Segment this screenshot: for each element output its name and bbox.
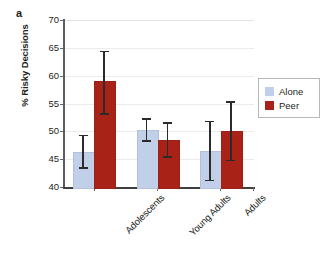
error-bar-stem bbox=[82, 135, 84, 170]
legend-item-peer: Peer bbox=[265, 101, 314, 111]
x-category-label: Adolescents bbox=[122, 192, 166, 236]
x-category-label: Adults bbox=[242, 192, 268, 218]
error-bar-peer-adolescents bbox=[94, 51, 114, 116]
legend-label-peer: Peer bbox=[279, 101, 299, 111]
plot-area: 70656055504540 bbox=[64, 20, 254, 187]
legend: Alone Peer bbox=[258, 78, 320, 118]
y-tick-label: 60 bbox=[48, 71, 59, 81]
error-bar-cap-lower bbox=[100, 113, 109, 115]
error-bar-stem bbox=[230, 101, 232, 161]
y-tick-label: 45 bbox=[48, 154, 59, 164]
legend-swatch-peer-icon bbox=[265, 101, 274, 110]
legend-item-alone: Alone bbox=[265, 87, 314, 97]
error-bar-cap-lower bbox=[205, 180, 214, 182]
error-bar-stem bbox=[146, 118, 148, 142]
y-tick-label: 50 bbox=[48, 127, 59, 137]
gridline bbox=[64, 76, 254, 77]
legend-label-alone: Alone bbox=[279, 87, 303, 97]
figure-panel-a: a % Risky Decisions 70656055504540 Adole… bbox=[0, 0, 328, 254]
error-bar-stem bbox=[103, 51, 105, 116]
y-tick-label: 65 bbox=[48, 43, 59, 53]
legend-swatch-alone-icon bbox=[265, 87, 274, 96]
error-bar-cap-lower bbox=[226, 160, 235, 162]
error-bar-peer-adults bbox=[221, 101, 241, 161]
error-bar-alone-young-adults bbox=[137, 118, 157, 142]
error-bar-stem bbox=[209, 121, 211, 182]
error-bar-peer-young-adults bbox=[158, 122, 178, 158]
y-tick-label: 40 bbox=[48, 182, 59, 192]
y-axis-title: % Risky Decisions bbox=[19, 0, 30, 136]
x-tick-mark-end bbox=[253, 187, 254, 191]
error-bar-stem bbox=[167, 122, 169, 158]
y-axis-line bbox=[63, 19, 65, 187]
gridline bbox=[64, 20, 254, 21]
error-bar-cap-lower bbox=[142, 140, 151, 142]
y-tick-label: 55 bbox=[48, 99, 59, 109]
error-bar-cap-lower bbox=[163, 156, 172, 158]
gridline bbox=[64, 48, 254, 49]
error-bar-cap-lower bbox=[79, 167, 88, 169]
error-bar-alone-adolescents bbox=[73, 135, 93, 170]
y-tick-label: 70 bbox=[48, 15, 59, 25]
error-bar-alone-adults bbox=[200, 121, 220, 182]
x-category-label: Young Adults bbox=[187, 192, 233, 238]
